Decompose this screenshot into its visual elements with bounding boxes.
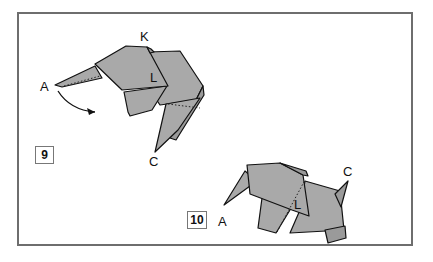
arrow-head-icon	[87, 108, 95, 115]
step-10-figure: A L C	[218, 163, 352, 243]
step-number-9: 9	[35, 146, 54, 164]
label-L: L	[150, 70, 157, 85]
label-K: K	[140, 29, 149, 44]
step-9-figure: A K L C	[40, 29, 204, 169]
leg-C	[155, 98, 200, 152]
label-L: L	[294, 197, 301, 212]
fold-arrow	[58, 91, 95, 112]
origami-diagram: A K L C A L C	[0, 0, 433, 262]
label-C: C	[149, 154, 158, 169]
trunk-flap	[55, 66, 102, 87]
step-number-10: 10	[187, 211, 207, 229]
label-A: A	[40, 79, 49, 94]
label-C: C	[343, 164, 352, 179]
label-A: A	[218, 214, 227, 229]
